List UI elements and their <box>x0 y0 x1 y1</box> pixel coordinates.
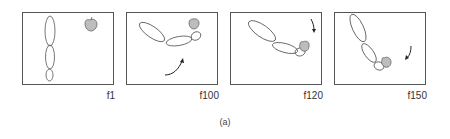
apple-icon <box>85 19 97 31</box>
frame-label-f1: f1 <box>75 90 115 101</box>
frame-label-f150: f150 <box>387 90 427 101</box>
frame-f150 <box>334 12 426 85</box>
frame-f1 <box>22 12 114 85</box>
arm-pose-f100 <box>127 13 219 86</box>
arm-pose-f1 <box>23 13 115 86</box>
apple-icon <box>189 19 199 29</box>
apple-icon <box>300 41 310 51</box>
down-arrow-icon <box>311 19 314 30</box>
frame-label-f100: f100 <box>179 90 219 101</box>
arm-pose-f120 <box>231 13 323 86</box>
frame-f120 <box>230 12 322 85</box>
apple-icon <box>382 57 391 67</box>
frame-f100 <box>126 12 218 85</box>
down-left-arrow-icon <box>407 46 411 58</box>
curved-arrow-icon <box>165 61 182 75</box>
figure-caption: (a) <box>212 117 238 127</box>
frame-label-f120: f120 <box>283 90 323 101</box>
arm-pose-f150 <box>335 13 427 86</box>
